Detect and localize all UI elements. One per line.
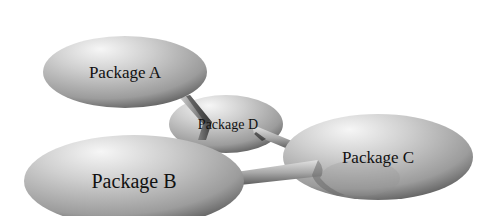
package-a-label: Package A [89, 63, 162, 82]
package-node-c[interactable]: Package C [283, 114, 473, 200]
package-node-a[interactable]: Package A [43, 36, 207, 108]
package-c-label: Package C [342, 148, 414, 167]
package-diagram: Package A Package D Package C Package B [0, 0, 494, 216]
package-d-label: Package D [198, 117, 258, 132]
package-b-label: Package B [92, 170, 177, 193]
